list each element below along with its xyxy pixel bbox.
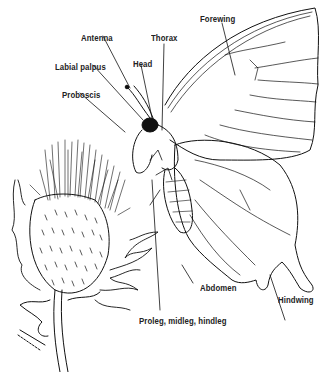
forewing xyxy=(165,8,319,160)
label-labial-palpus: Labial palpus xyxy=(55,61,106,72)
label-antenna: Antenna xyxy=(81,32,113,43)
thistle-flower xyxy=(30,140,130,215)
label-forewing: Forewing xyxy=(200,13,235,24)
thistle-bulb xyxy=(30,194,109,293)
label-abdomen: Abdomen xyxy=(200,282,237,293)
leader-lines xyxy=(80,23,285,320)
label-legs: Proleg, midleg, hindleg xyxy=(139,315,227,326)
thistle-stem xyxy=(18,290,100,372)
thistle-leaves xyxy=(12,180,158,310)
hindwing xyxy=(174,140,313,292)
label-proboscis: Proboscis xyxy=(62,89,100,100)
butterfly-body xyxy=(133,118,193,233)
label-thorax: Thorax xyxy=(151,32,177,43)
label-head: Head xyxy=(133,58,152,69)
label-hindwing: Hindwing xyxy=(278,294,314,305)
